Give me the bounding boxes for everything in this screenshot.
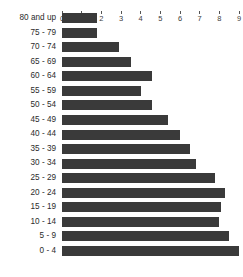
bar (62, 28, 97, 38)
chart-row: 40 - 44 (0, 128, 243, 143)
age-group-label: 15 - 19 (0, 201, 56, 213)
chart-row: 75 - 79 (0, 27, 243, 42)
bar (62, 13, 97, 23)
age-group-label: 10 - 14 (0, 216, 56, 228)
bar (62, 130, 180, 140)
bar (62, 42, 119, 52)
chart-row: 0 - 4 (0, 245, 243, 260)
age-group-label: 5 - 9 (0, 230, 56, 242)
age-group-label: 25 - 29 (0, 172, 56, 184)
bar (62, 188, 225, 198)
age-group-label: 80 and up (0, 12, 56, 24)
bar (62, 144, 190, 154)
chart-row: 30 - 34 (0, 157, 243, 172)
bar-rows-container: 80 and up75 - 7970 - 7465 - 6960 - 6455 … (0, 12, 243, 259)
population-pyramid-chart: 0123456789 80 and up75 - 7970 - 7465 - 6… (0, 0, 243, 277)
chart-row: 50 - 54 (0, 99, 243, 114)
chart-row: 15 - 19 (0, 201, 243, 216)
age-group-label: 35 - 39 (0, 143, 56, 155)
bar (62, 202, 221, 212)
bar (62, 86, 141, 96)
age-group-label: 55 - 59 (0, 85, 56, 97)
bar (62, 246, 239, 256)
bar (62, 231, 229, 241)
bar (62, 159, 196, 169)
bar (62, 57, 131, 67)
chart-row: 80 and up (0, 12, 243, 27)
chart-row: 45 - 49 (0, 114, 243, 129)
age-group-label: 50 - 54 (0, 99, 56, 111)
age-group-label: 60 - 64 (0, 70, 56, 82)
chart-row: 60 - 64 (0, 70, 243, 85)
chart-row: 20 - 24 (0, 187, 243, 202)
chart-row: 10 - 14 (0, 216, 243, 231)
age-group-label: 30 - 34 (0, 157, 56, 169)
age-group-label: 70 - 74 (0, 41, 56, 53)
chart-row: 25 - 29 (0, 172, 243, 187)
bar (62, 217, 219, 227)
bar (62, 173, 215, 183)
age-group-label: 40 - 44 (0, 128, 56, 140)
bar (62, 71, 152, 81)
bar (62, 100, 152, 110)
chart-row: 35 - 39 (0, 143, 243, 158)
chart-row: 70 - 74 (0, 41, 243, 56)
age-group-label: 0 - 4 (0, 245, 56, 257)
age-group-label: 45 - 49 (0, 114, 56, 126)
bar (62, 115, 168, 125)
chart-row: 5 - 9 (0, 230, 243, 245)
age-group-label: 20 - 24 (0, 187, 56, 199)
age-group-label: 75 - 79 (0, 27, 56, 39)
age-group-label: 65 - 69 (0, 56, 56, 68)
chart-row: 55 - 59 (0, 85, 243, 100)
chart-row: 65 - 69 (0, 56, 243, 71)
